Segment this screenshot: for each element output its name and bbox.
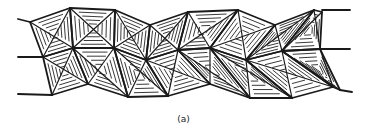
hatch-line — [159, 67, 169, 84]
hatch-line — [117, 19, 118, 42]
hatch-line — [188, 52, 208, 53]
hatch-line — [174, 83, 200, 90]
diagonal-line — [70, 8, 114, 48]
hatch-line — [62, 74, 68, 76]
diagonal-line — [210, 48, 292, 98]
hatch-line — [290, 77, 297, 79]
hatch-line — [291, 46, 314, 47]
hatch-line — [272, 65, 284, 68]
hatch-line — [265, 61, 282, 65]
hatch-line — [150, 31, 152, 52]
hatch-line — [79, 19, 80, 38]
hatch-line — [67, 17, 69, 42]
tile-edge — [238, 10, 275, 25]
diagonal-line — [88, 48, 114, 84]
hatch-line — [292, 80, 305, 84]
hatch-line — [193, 57, 208, 58]
square-tile — [178, 10, 238, 50]
lead-line-bottom-left — [18, 94, 52, 95]
hatch-line — [50, 28, 57, 30]
hatch-line — [300, 38, 312, 39]
hatch-line — [186, 45, 206, 46]
tile-edge — [146, 25, 150, 60]
square-tiles — [30, 8, 340, 98]
hatch-line — [61, 77, 73, 81]
figure-caption: (a) — [0, 114, 367, 124]
hatch-line — [165, 63, 175, 66]
tile-edge — [292, 87, 333, 98]
hatch-line — [230, 42, 242, 46]
hatch-line — [314, 25, 315, 37]
tile-edge — [70, 8, 115, 10]
hatch-line — [138, 33, 139, 44]
hatch-line — [255, 31, 273, 52]
diagonal-line — [128, 60, 146, 97]
hatch-line — [164, 69, 171, 81]
lead-line-top-left — [18, 19, 30, 22]
hatch-line — [190, 41, 205, 42]
hatch-line — [104, 66, 106, 75]
hatch-line — [225, 44, 242, 50]
diagonal-line — [246, 60, 250, 98]
hatch-line — [75, 16, 77, 41]
hatch-line — [83, 22, 84, 35]
tile-edge — [88, 84, 128, 97]
hatch-line — [141, 32, 143, 48]
hatch-line — [211, 18, 228, 41]
square-tile — [282, 10, 322, 51]
square-tile — [73, 48, 128, 97]
tile-edge — [70, 8, 73, 48]
hatch-line — [64, 21, 65, 40]
hatch-line — [88, 25, 89, 32]
hatch-line — [198, 18, 221, 19]
tile-edge — [30, 22, 43, 57]
hatch-line — [325, 77, 327, 78]
square-tile — [210, 48, 292, 98]
hatch-line — [147, 66, 161, 88]
hatch-line — [174, 78, 188, 82]
hatch-line — [230, 27, 239, 39]
hatch-line — [154, 32, 156, 48]
hatch-line — [42, 19, 61, 26]
hatch-line — [79, 12, 107, 13]
hatch-line — [236, 39, 242, 41]
hatch-line — [134, 92, 159, 93]
hatch-line — [236, 31, 241, 38]
hatch-line — [86, 20, 100, 21]
hatch-line — [160, 59, 175, 64]
hatch-line — [53, 58, 67, 62]
hatch-line — [36, 28, 44, 49]
hatch-line — [56, 67, 59, 79]
hatch-line — [124, 21, 140, 28]
hatch-line — [120, 47, 140, 54]
tile-edge — [282, 49, 320, 51]
tile-edge — [178, 48, 210, 50]
hatch-line — [305, 61, 317, 62]
hatch-line — [57, 62, 67, 65]
hatch-line — [46, 24, 59, 29]
tile-edge — [73, 48, 88, 84]
hatch-line — [157, 34, 158, 45]
hatch-line — [175, 75, 182, 77]
tile-edge — [114, 48, 146, 60]
hatch-line — [189, 22, 194, 40]
hatch-line — [210, 20, 223, 38]
hatch-line — [179, 61, 194, 77]
hatch-line — [144, 30, 146, 51]
hatch-line — [251, 67, 279, 90]
hatch-line — [295, 42, 313, 43]
hatch-line — [199, 61, 209, 62]
hatch-line — [199, 22, 215, 23]
diagonal-line — [282, 12, 322, 51]
lead-line-bottom-right — [340, 90, 352, 92]
tile-edge — [146, 60, 168, 96]
hatch-line — [299, 57, 317, 58]
tile-edge — [320, 12, 322, 49]
tiling-diagram — [0, 0, 367, 110]
square-tile — [70, 8, 115, 48]
hatch-line — [82, 16, 103, 17]
tile-edge — [188, 10, 238, 12]
hatch-line — [110, 60, 117, 83]
tile-edge — [314, 10, 322, 12]
tile-edge — [114, 10, 115, 48]
